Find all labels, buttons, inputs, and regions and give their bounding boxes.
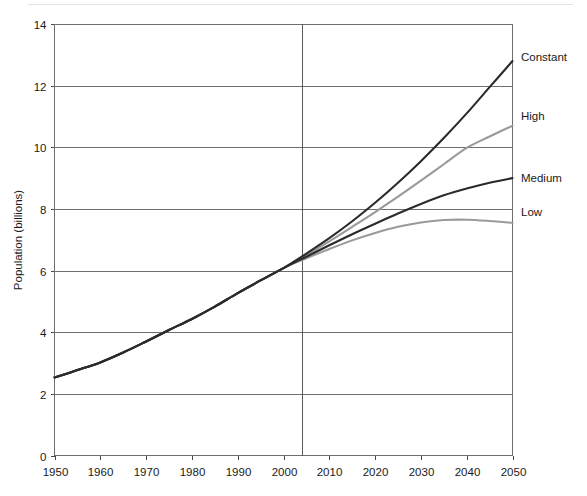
- x-tick-label: 2030: [409, 466, 435, 478]
- x-tick-label: 2020: [363, 466, 389, 478]
- series-line-low: [55, 220, 513, 378]
- x-tick-label: 2040: [455, 466, 481, 478]
- series-end-labels: ConstantHighMediumLow: [521, 51, 568, 218]
- y-axis-tick-labels: 02468101214: [34, 19, 47, 463]
- x-tick-label: 1960: [88, 466, 114, 478]
- chart-svg: 02468101214 1950196019701980199020002010…: [0, 0, 587, 496]
- y-tick-label: 12: [34, 81, 47, 93]
- y-axis-title: Population (billions): [12, 190, 24, 291]
- gridlines: [55, 25, 513, 395]
- x-axis-tick-labels: 1950196019701980199020002010202020302040…: [43, 466, 527, 478]
- series-label-high: High: [521, 110, 545, 122]
- y-tick-label: 8: [40, 204, 46, 216]
- y-tick-label: 6: [40, 266, 46, 278]
- x-tick-label: 1970: [134, 466, 160, 478]
- x-tick-label: 1950: [43, 466, 69, 478]
- x-tick-label: 2050: [501, 466, 527, 478]
- y-tick-label: 14: [34, 19, 47, 31]
- y-tick-label: 2: [40, 389, 46, 401]
- x-tick-label: 2010: [317, 466, 343, 478]
- y-tick-label: 0: [40, 451, 46, 463]
- x-tick-label: 2000: [272, 466, 298, 478]
- series-label-medium: Medium: [521, 172, 562, 184]
- series-line-medium: [55, 178, 513, 377]
- x-tick-label: 1990: [226, 466, 252, 478]
- y-tick-label: 4: [40, 327, 47, 339]
- population-projection-chart: 02468101214 1950196019701980199020002010…: [0, 0, 587, 496]
- series-label-low: Low: [521, 206, 543, 218]
- series-label-constant: Constant: [521, 51, 568, 63]
- y-tick-label: 10: [34, 142, 47, 154]
- series-line-high: [55, 126, 513, 378]
- x-tick-label: 1980: [180, 466, 206, 478]
- data-series: [55, 61, 513, 378]
